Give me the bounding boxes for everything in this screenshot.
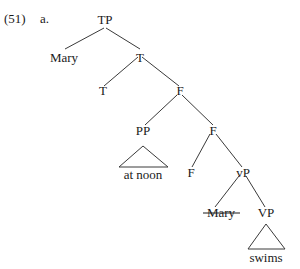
- syntax-tree-figure: (51) a. TP Mary T T F PP F at noon F vP …: [0, 0, 300, 269]
- node-tp: TP: [97, 12, 112, 27]
- branch-fupper-to-fmid: [182, 95, 213, 125]
- node-vp-big: VP: [258, 205, 275, 220]
- node-t-bar: T: [136, 50, 144, 65]
- branch-vp-to-bigvp: [246, 176, 265, 207]
- branch-fmid-to-vp: [216, 134, 242, 167]
- example-number: (51): [4, 11, 26, 26]
- leaf-subject-mary: Mary: [50, 50, 79, 65]
- node-f-head: F: [187, 165, 194, 180]
- node-pp: PP: [136, 123, 150, 138]
- leaf-swims: swims: [249, 250, 282, 265]
- pp-triangle: [119, 146, 168, 167]
- branch-fmid-to-fhead: [192, 134, 210, 167]
- node-t-head: T: [99, 83, 107, 98]
- branch-tbar-to-f-upper: [142, 57, 179, 86]
- branch-tp-to-tbar: [106, 28, 140, 49]
- vp-triangle: [248, 224, 285, 249]
- branch-tp-to-subject: [65, 28, 104, 49]
- node-f-upper: F: [176, 83, 183, 98]
- leaf-at-noon: at noon: [124, 167, 163, 182]
- node-vp-small: vP: [236, 165, 250, 180]
- branch-vp-to-trace: [215, 176, 239, 207]
- example-sublabel: a.: [40, 11, 49, 26]
- branch-fupper-to-pp: [145, 95, 177, 125]
- branch-tbar-to-t: [104, 57, 138, 86]
- node-f-mid: F: [209, 123, 216, 138]
